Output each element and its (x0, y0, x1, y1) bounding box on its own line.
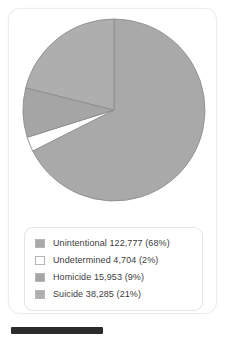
legend-swatch-unintentional (35, 239, 45, 248)
bottom-progress-bar (11, 327, 103, 334)
legend-item-homicide[interactable]: Homicide 15,953 (9%) (31, 269, 196, 285)
legend-item-suicide[interactable]: Suicide 38,285 (21%) (31, 286, 196, 302)
legend-label-undetermined: Undetermined 4,704 (2%) (53, 254, 158, 266)
legend-label-homicide: Homicide 15,953 (9%) (53, 271, 144, 283)
legend-swatch-suicide (35, 290, 45, 299)
pie-slice-group (23, 19, 205, 201)
chart-legend: Unintentional 122,777 (68%) Undetermined… (24, 227, 203, 311)
legend-label-unintentional: Unintentional 122,777 (68%) (53, 237, 170, 249)
legend-item-unintentional[interactable]: Unintentional 122,777 (68%) (31, 235, 196, 251)
legend-label-suicide: Suicide 38,285 (21%) (53, 288, 141, 300)
pie-chart-svg (19, 12, 209, 208)
legend-swatch-homicide (35, 273, 45, 282)
pie-chart-plot-area (9, 9, 218, 214)
legend-swatch-undetermined (35, 256, 45, 265)
legend-item-undetermined[interactable]: Undetermined 4,704 (2%) (31, 252, 196, 268)
pie-chart-card: Unintentional 122,777 (68%) Undetermined… (8, 8, 217, 314)
